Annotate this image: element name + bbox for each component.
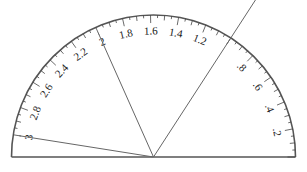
scale-label: 1.6 — [144, 24, 158, 36]
tick-mark — [274, 89, 278, 91]
tick-mark — [71, 41, 76, 48]
tick-mark — [66, 45, 68, 47]
scale-label: .4 — [263, 102, 277, 115]
line-to-1 — [154, 0, 257, 157]
tick-mark — [256, 61, 258, 63]
tick-mark — [83, 34, 85, 38]
tick-mark — [259, 66, 263, 69]
scale-label: .2 — [271, 127, 284, 137]
tick-mark — [177, 17, 178, 25]
scale-label: .6 — [251, 79, 266, 93]
tick-mark — [264, 71, 266, 73]
protractor-gauge-diagram: .2.4.6.81.21.41.61.822.22.42.62.83 — [0, 0, 307, 172]
tick-mark — [264, 77, 271, 81]
tick-mark — [191, 20, 192, 25]
tick-mark — [26, 95, 30, 97]
scale-label: 2.8 — [27, 104, 43, 122]
tick-mark — [45, 65, 47, 67]
tick-mark — [50, 60, 56, 65]
tick-mark — [216, 31, 218, 35]
tick-mark — [284, 115, 289, 116]
tick-mark — [277, 102, 284, 105]
scale-label: 1.8 — [118, 26, 135, 41]
tick-mark — [123, 18, 125, 26]
indicator-lines — [19, 0, 257, 157]
tick-mark — [41, 71, 45, 74]
tick-mark — [55, 55, 57, 57]
tick-mark — [20, 108, 27, 111]
tick-mark — [239, 46, 242, 50]
scale-label: .8 — [235, 59, 250, 74]
tick-mark — [246, 51, 248, 53]
scale-label: 1.2 — [191, 31, 208, 47]
scale-label: 2.4 — [52, 61, 71, 80]
tick-mark — [203, 25, 206, 32]
tick-mark — [247, 56, 253, 62]
tick-mark — [16, 121, 21, 122]
tick-mark — [285, 129, 293, 131]
line-to-2 — [98, 33, 153, 157]
tick-mark — [33, 82, 40, 86]
scale-label: 2.2 — [71, 45, 89, 63]
tick-mark — [60, 50, 63, 54]
scale-label: 2.6 — [37, 81, 55, 99]
tick-mark — [109, 22, 111, 27]
scale-label: 1.4 — [168, 25, 184, 39]
tick-mark — [129, 17, 130, 20]
scale-labels: .2.4.6.81.21.41.61.822.22.42.62.83 — [22, 24, 284, 140]
line-to-3 — [19, 136, 153, 157]
